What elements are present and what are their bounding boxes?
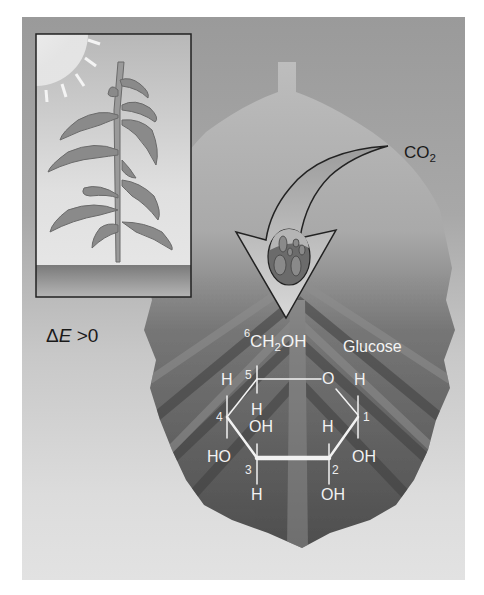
- c4-hydrogen: H: [251, 402, 263, 418]
- chloroplast-icon: [268, 229, 310, 285]
- carbon-3-number: 3: [245, 463, 252, 477]
- carbon-1-number: 1: [363, 410, 370, 424]
- energy-relation: >0: [71, 325, 98, 346]
- c3-hydroxyl: HO: [207, 449, 231, 465]
- diagram-scene: [0, 0, 484, 595]
- c3-hydrogen: H: [251, 487, 263, 503]
- energy-symbol: E: [59, 325, 72, 346]
- carbon-4-number: 4: [216, 410, 223, 424]
- c2-hydroxyl: OH: [321, 487, 345, 503]
- plant-inset: [0, 0, 191, 297]
- c4-hydroxyl: OH: [249, 419, 273, 435]
- c2-hydrogen: H: [322, 419, 334, 435]
- glucose-title: Glucose: [343, 338, 402, 356]
- ch2oh-group: CH2OH: [250, 332, 306, 352]
- ring-oxygen: O: [322, 371, 334, 387]
- energy-change-label: ΔE >0: [46, 325, 98, 347]
- carbon-2-number: 2: [332, 463, 339, 477]
- delta-symbol: Δ: [46, 325, 59, 346]
- c1-top-hydrogen: H: [354, 372, 366, 388]
- c5-hydrogen: H: [221, 372, 233, 388]
- c1-hydroxyl: OH: [352, 449, 376, 465]
- carbon-5-number: 5: [245, 368, 252, 382]
- co2-label: CO2: [404, 143, 436, 163]
